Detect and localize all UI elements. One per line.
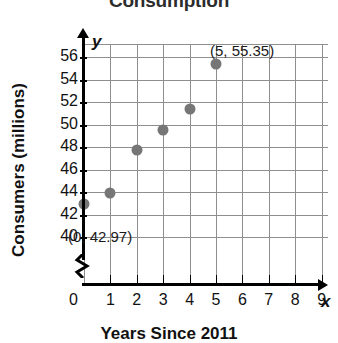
y-tick-mark — [80, 192, 87, 194]
gridline-vertical — [216, 44, 217, 284]
data-point — [184, 103, 195, 114]
x-tick-label: 2 — [127, 291, 147, 309]
gridline-vertical — [242, 44, 243, 284]
x-tick-label: 5 — [206, 291, 226, 309]
x-tick-label: 7 — [259, 291, 279, 309]
x-tick-mark — [322, 275, 323, 283]
y-tick-mark — [80, 215, 87, 217]
y-tick-mark — [80, 102, 87, 104]
gridline-horizontal — [84, 192, 328, 193]
x-tick-mark — [295, 275, 296, 283]
x-tick-label: 3 — [153, 291, 173, 309]
x-tick-label: 9 — [312, 291, 332, 309]
y-tick-label-zero: 0 — [38, 291, 78, 309]
y-tick-label: 44 — [38, 182, 78, 200]
y-tick-label: 54 — [38, 70, 78, 88]
y-tick-mark — [80, 125, 87, 127]
annotation-point-5: (5, 55.35) — [210, 42, 274, 59]
gridline-horizontal — [84, 44, 328, 45]
y-axis-label: Consumers (millions) — [9, 45, 29, 295]
plot-area — [84, 44, 328, 284]
data-point — [158, 125, 169, 136]
x-tick-mark — [163, 275, 164, 283]
gridline-horizontal — [84, 57, 328, 58]
x-tick-label: 6 — [232, 291, 252, 309]
y-tick-label: 46 — [38, 160, 78, 178]
y-tick-label: 56 — [38, 47, 78, 65]
x-axis-arrow-icon — [318, 279, 328, 291]
gridline-vertical — [137, 44, 138, 284]
gridline-vertical — [322, 44, 323, 284]
gridline-horizontal — [84, 215, 328, 216]
annotation-point-0: (0, 42.97) — [68, 228, 132, 245]
y-tick-label: 42 — [38, 205, 78, 223]
x-tick-mark — [216, 275, 217, 283]
y-axis-arrow-icon — [77, 28, 89, 38]
data-point — [211, 59, 222, 70]
y-tick-label: 48 — [38, 137, 78, 155]
gridline-vertical — [295, 44, 296, 284]
gridline-horizontal — [84, 102, 328, 103]
gridline-horizontal — [84, 80, 328, 81]
y-axis-variable-symbol: y — [92, 32, 101, 52]
gridline-horizontal — [84, 170, 328, 171]
x-tick-label: 1 — [100, 291, 120, 309]
x-tick-mark — [242, 275, 243, 283]
x-tick-mark — [137, 275, 138, 283]
y-tick-mark — [80, 57, 87, 59]
x-tick-label: 8 — [285, 291, 305, 309]
y-tick-label: 52 — [38, 92, 78, 110]
y-tick-label: 50 — [38, 115, 78, 133]
x-tick-mark — [110, 275, 111, 283]
x-tick-mark — [269, 275, 270, 283]
y-tick-mark — [80, 170, 87, 172]
x-tick-mark — [190, 275, 191, 283]
gridline-vertical — [163, 44, 164, 284]
y-tick-labels: 4042444648505254560 — [34, 0, 78, 338]
x-tick-label: 4 — [180, 291, 200, 309]
gridline-horizontal — [84, 147, 328, 148]
y-tick-mark — [80, 147, 87, 149]
data-point — [105, 188, 116, 199]
y-tick-mark — [80, 80, 87, 82]
gridline-vertical — [269, 44, 270, 284]
gridline-horizontal — [84, 125, 328, 126]
data-point — [131, 145, 142, 156]
gridline-vertical — [190, 44, 191, 284]
gridline-vertical — [110, 44, 111, 284]
x-axis-line — [82, 283, 320, 286]
